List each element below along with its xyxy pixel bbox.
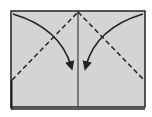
diagram-svg [0,0,152,117]
origami-diagram [0,0,152,117]
